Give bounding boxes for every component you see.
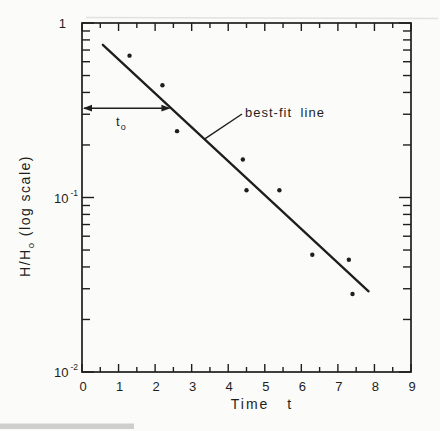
x-axis-tick-label: 4 (226, 379, 233, 394)
data-point (127, 53, 131, 57)
data-point (277, 188, 281, 192)
x-axis-tick-label: 3 (189, 379, 196, 394)
data-point (347, 258, 351, 262)
axis-tick-labels: 0123456789110-110-2 (54, 16, 416, 394)
x-axis-tick-label: 7 (335, 379, 342, 394)
data-point (244, 188, 248, 192)
data-layer (103, 45, 369, 296)
y-axis-tick-label: 1 (59, 16, 66, 31)
axis-ticks (82, 23, 411, 372)
data-point (310, 253, 314, 257)
data-point (160, 83, 164, 87)
semilog-decay-chart: 0123456789110-110-2 to Time t H/Ho (log … (0, 0, 440, 431)
plot-frame (82, 23, 411, 372)
x-axis-title: Time t (231, 396, 293, 412)
x-axis-tick-label: 1 (116, 379, 123, 394)
annotation-layer: to (83, 105, 242, 139)
x-axis-tick-label: 5 (262, 379, 269, 394)
x-axis-tick-label: 2 (152, 379, 159, 394)
best-fit-label-leader-line (204, 114, 242, 139)
y-axis-tick-label: 10-1 (54, 188, 78, 206)
scan-artifact-top-line (86, 18, 438, 19)
best-fit-line (103, 45, 369, 292)
x-axis-tick-label: 9 (408, 379, 415, 394)
arrow-left-head-icon (83, 105, 92, 112)
y-axis-tick-label: 10-2 (54, 362, 78, 380)
data-point (175, 129, 179, 133)
y-axis-title: H/Ho (log scale) (17, 155, 36, 277)
data-point (241, 157, 245, 161)
x-axis-tick-label: 8 (372, 379, 379, 394)
figure: 0123456789110-110-2 to Time t H/Ho (log … (0, 0, 440, 431)
x-axis-tick-label: 0 (79, 379, 86, 394)
best-fit-line-label: best-fit line (245, 105, 325, 120)
x-axis-tick-label: 6 (299, 379, 306, 394)
scan-artifact-bottom-band (0, 424, 134, 430)
time-lag-label: to (116, 114, 127, 132)
data-point (350, 292, 354, 296)
